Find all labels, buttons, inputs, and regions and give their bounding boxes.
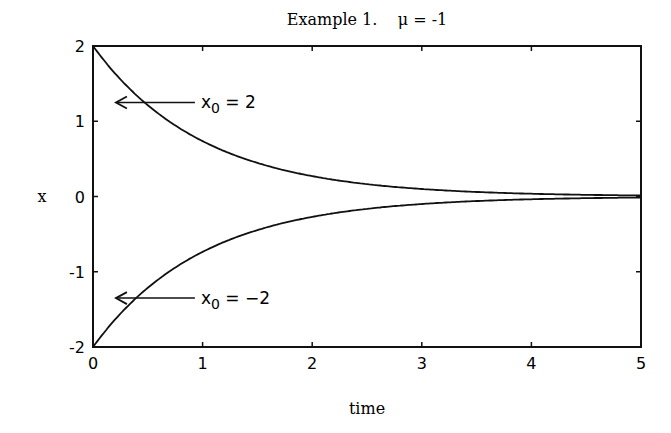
y-tick-label: 2 — [75, 37, 85, 56]
y-tick-labels: 210‑1‑2 — [69, 37, 85, 357]
x-tick-label: 5 — [636, 354, 646, 373]
data-series — [93, 46, 641, 347]
y-tick-label: ‑2 — [69, 338, 85, 357]
plot-frame — [93, 46, 641, 347]
series-line-2 — [93, 198, 641, 348]
x-tick-label: 4 — [526, 354, 536, 373]
x-tick-label: 1 — [198, 354, 208, 373]
x-tick-labels: 012345 — [88, 354, 646, 373]
x-tick-label: 3 — [417, 354, 427, 373]
axis-ticks — [93, 46, 641, 347]
y-tick-label: ‑1 — [69, 263, 85, 282]
x-tick-label: 0 — [88, 354, 98, 373]
annotations: x0 = 2x0 = −2 — [116, 92, 270, 312]
annotation-label: x0 = −2 — [201, 288, 270, 312]
y-tick-label: 0 — [75, 188, 85, 207]
series-line-1 — [93, 46, 641, 196]
x-axis-label: time — [349, 399, 385, 418]
chart-title: Example 1. μ = -1 — [287, 10, 448, 29]
annotation-label: x0 = 2 — [201, 92, 256, 116]
x-tick-label: 2 — [307, 354, 317, 373]
line-chart: Example 1. μ = -1 012345 210‑1‑2 x time … — [0, 0, 671, 433]
y-tick-label: 1 — [75, 112, 85, 131]
y-axis-label: x — [37, 187, 46, 206]
